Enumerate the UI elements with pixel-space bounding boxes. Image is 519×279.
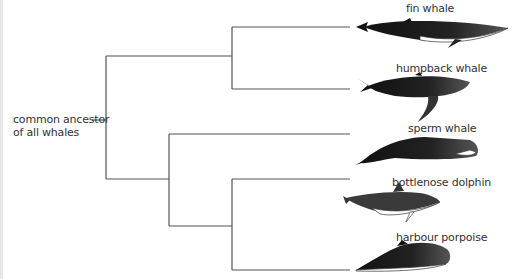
species-label-harbour-porpoise: harbour porpoise: [396, 231, 487, 244]
humpback-whale-icon: [357, 72, 470, 122]
harbour-porpoise-icon: [356, 240, 450, 271]
fin-whale-icon: [356, 18, 508, 48]
species-label-bottlenose-dolphin: bottlenose dolphin: [392, 176, 491, 189]
root-label-line1: common ancestor: [13, 113, 109, 126]
sperm-whale-icon: [355, 137, 478, 165]
root-label-line2: of all whales: [13, 126, 109, 139]
species-label-fin-whale: fin whale: [406, 2, 454, 15]
species-label-sperm-whale: sperm whale: [408, 122, 476, 135]
species-label-humpback-whale: humpback whale: [396, 62, 487, 75]
root-label: common ancestor of all whales: [13, 113, 109, 139]
